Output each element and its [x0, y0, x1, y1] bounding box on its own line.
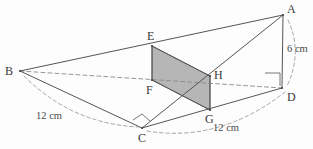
dim-6cm-label: 6 cm: [287, 44, 308, 55]
vertex-label-b: B: [5, 65, 13, 77]
dim-12cm-left-label: 12 cm: [36, 111, 62, 122]
vertex-dot-g: [209, 109, 211, 111]
vertex-label-d: D: [287, 91, 296, 103]
vertex-label-e: E: [147, 30, 155, 42]
vertex-dot-h: [209, 75, 211, 77]
vertex-label-c: C: [138, 132, 146, 144]
figure-canvas: [0, 0, 313, 149]
vertex-dot-e: [151, 45, 153, 47]
vertex-dot-d: [281, 87, 283, 89]
vertex-label-a: A: [287, 3, 296, 15]
dim-12cm-right-label: 12 cm: [213, 123, 239, 134]
vertex-dot-a: [282, 14, 284, 16]
vertex-label-f: F: [146, 84, 153, 96]
cross-section-EFGH: [152, 46, 210, 110]
geometry-figure: ABCDEFGH 6 cm12 cm12 cm: [0, 0, 313, 149]
vertex-dot-c: [141, 127, 143, 129]
right-angle-marker-D: [265, 73, 280, 86]
vertex-dot-b: [19, 70, 21, 72]
edge-A-D: [282, 15, 283, 88]
vertex-dot-f: [151, 79, 153, 81]
vertex-label-h: H: [214, 69, 223, 81]
right-angle-marker-C: [133, 114, 150, 121]
